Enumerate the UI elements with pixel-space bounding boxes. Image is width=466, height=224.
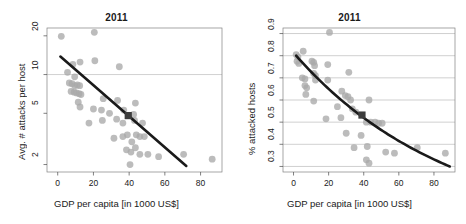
scatter-point bbox=[136, 151, 143, 158]
scatter-point bbox=[338, 114, 345, 121]
scatter-point bbox=[209, 156, 216, 163]
scatter-point bbox=[128, 138, 135, 145]
highlight-marker bbox=[125, 112, 132, 119]
scatter-point bbox=[113, 116, 120, 123]
panel-percent-attacked-hosts: 2011 % attacked hosts GDP per capita [in… bbox=[233, 0, 466, 224]
scatter-point bbox=[180, 151, 187, 158]
scatter-point bbox=[351, 144, 358, 151]
panel-avg-attacks-per-host: 2011 Avg. # attacks per host GDP per cap… bbox=[0, 0, 233, 224]
scatter-point bbox=[302, 76, 309, 83]
scatter-point bbox=[311, 62, 318, 69]
scatter-point bbox=[326, 29, 333, 36]
scatter-point bbox=[77, 104, 84, 111]
scatter-point bbox=[343, 130, 350, 137]
y-axis-title-right: % attacked hosts bbox=[246, 55, 257, 155]
scatter-point bbox=[58, 33, 65, 40]
y-tick-label: 0.6 bbox=[266, 80, 278, 100]
x-tick-label: 0 bbox=[291, 178, 296, 188]
scatter-point bbox=[71, 73, 78, 80]
scatter-point bbox=[127, 161, 134, 168]
scatter-point bbox=[347, 97, 354, 104]
scatter-point bbox=[324, 61, 331, 68]
scatter-point bbox=[303, 84, 310, 91]
scatter-point bbox=[99, 117, 106, 124]
scatter-point bbox=[90, 106, 97, 113]
scatter-point bbox=[78, 91, 85, 98]
scatter-point bbox=[302, 91, 309, 98]
highlight-marker bbox=[358, 111, 365, 118]
scatter-point bbox=[86, 120, 93, 127]
y-axis-title-left: Avg. # attacks per host bbox=[16, 40, 27, 160]
scatter-point bbox=[91, 57, 98, 64]
x-tick-label: 80 bbox=[196, 178, 205, 188]
figure-two-panel-scatter: 2011 Avg. # attacks per host GDP per cap… bbox=[0, 0, 466, 224]
scatter-point bbox=[106, 110, 113, 117]
scatter-point bbox=[379, 120, 386, 127]
x-tick-label: 40 bbox=[359, 178, 368, 188]
scatter-point bbox=[391, 150, 398, 157]
x-tick-label: 0 bbox=[55, 178, 60, 188]
scatter-point bbox=[310, 98, 317, 105]
x-tick-label: 40 bbox=[124, 178, 133, 188]
y-tick-label: 10 bbox=[30, 55, 42, 75]
x-axis-title-left: GDP per capita [in 1000 US$] bbox=[0, 198, 233, 209]
y-tick-label: 0.8 bbox=[266, 36, 278, 56]
y-tick-label: 0.7 bbox=[266, 58, 278, 78]
scatter-point bbox=[366, 97, 373, 104]
x-tick-label: 20 bbox=[324, 178, 333, 188]
y-tick-label: 0.4 bbox=[266, 124, 278, 144]
scatter-point bbox=[300, 48, 307, 55]
scatter-point bbox=[98, 107, 105, 114]
x-tick-label: 60 bbox=[160, 178, 169, 188]
trend-line bbox=[296, 56, 450, 167]
scatter-point bbox=[144, 151, 151, 158]
scatter-point bbox=[323, 115, 330, 122]
x-tick-label: 20 bbox=[89, 178, 98, 188]
x-tick-label: 80 bbox=[429, 178, 438, 188]
scatter-point bbox=[91, 29, 98, 36]
scatter-point bbox=[132, 144, 139, 151]
y-tick-label: 20 bbox=[30, 16, 42, 36]
x-tick-label: 60 bbox=[394, 178, 403, 188]
scatter-point bbox=[141, 133, 148, 140]
scatter-point bbox=[76, 82, 83, 89]
scatter-point bbox=[155, 153, 162, 160]
scatter-point bbox=[334, 103, 341, 110]
scatter-point bbox=[124, 131, 131, 138]
scatter-point bbox=[324, 77, 331, 84]
scatter-point bbox=[77, 59, 84, 66]
scatter-point bbox=[382, 149, 389, 156]
scatter-point bbox=[132, 100, 139, 107]
scatter-point bbox=[345, 69, 352, 76]
y-tick-label: 5 bbox=[30, 93, 42, 113]
y-tick-label: 0.5 bbox=[266, 102, 278, 122]
scatter-point bbox=[442, 150, 449, 157]
y-tick-label: 0.9 bbox=[266, 14, 278, 34]
scatter-point bbox=[64, 69, 71, 76]
y-tick-label: 0.3 bbox=[266, 146, 278, 166]
scatter-point bbox=[364, 143, 371, 150]
y-tick-label: 2 bbox=[30, 145, 42, 165]
x-axis-title-right: GDP per capita [in 1000 US$] bbox=[233, 198, 466, 209]
scatter-point bbox=[111, 135, 118, 142]
scatter-point bbox=[116, 63, 123, 70]
scatter-point bbox=[119, 120, 126, 127]
scatter-point bbox=[358, 132, 365, 139]
scatter-point bbox=[366, 160, 373, 167]
